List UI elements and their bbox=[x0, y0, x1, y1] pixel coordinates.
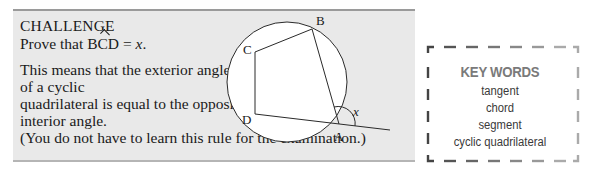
angle-label-x: x bbox=[352, 104, 359, 119]
point-label-b: B bbox=[316, 13, 325, 28]
key-word-segment: segment bbox=[433, 118, 568, 132]
key-word-tangent: tangent bbox=[433, 84, 568, 98]
point-label-a: A bbox=[334, 129, 344, 144]
key-words-box: KEY WORDS tangent chord segment cyclic q… bbox=[425, 45, 575, 162]
point-label-d: D bbox=[242, 112, 251, 127]
key-words-title: KEY WORDS bbox=[434, 63, 566, 80]
key-word-cyclic-quadrilateral: cyclic quadrilateral bbox=[433, 135, 568, 149]
key-word-chord: chord bbox=[433, 101, 568, 115]
point-label-c: C bbox=[243, 42, 252, 57]
